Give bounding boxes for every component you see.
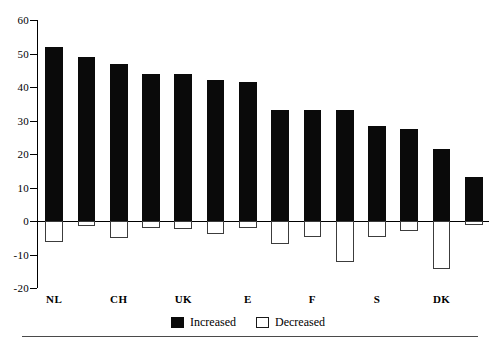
chart-figure: 6050403020100-10-20 NLCHUKEFSDK Increase… xyxy=(0,0,496,346)
bar-decreased[interactable] xyxy=(336,221,354,262)
bar-increased[interactable] xyxy=(239,82,257,221)
bar-slot[interactable] xyxy=(45,20,63,288)
x-axis-label-e: E xyxy=(232,292,264,306)
x-axis-label-uk: UK xyxy=(167,292,199,306)
bar-slot[interactable] xyxy=(207,20,225,288)
bar-slot[interactable] xyxy=(433,20,451,288)
legend-entry-decreased[interactable]: Decreased xyxy=(256,316,325,328)
bar-increased[interactable] xyxy=(336,110,354,221)
bar-decreased[interactable] xyxy=(304,221,322,237)
bar-increased[interactable] xyxy=(368,126,386,221)
bar-group xyxy=(38,20,489,288)
bar-slot[interactable] xyxy=(304,20,322,288)
y-tick-mark xyxy=(30,87,37,88)
bar-decreased[interactable] xyxy=(110,221,128,238)
bar-increased[interactable] xyxy=(174,74,192,221)
bar-slot[interactable] xyxy=(174,20,192,288)
bar-increased[interactable] xyxy=(304,110,322,221)
y-tick-label: 30 xyxy=(0,115,29,126)
x-axis-label-f: F xyxy=(296,292,328,306)
y-tick-mark xyxy=(30,188,37,189)
open-square-icon xyxy=(256,317,269,328)
y-tick-label: -20 xyxy=(0,283,29,294)
y-tick-mark xyxy=(30,121,37,122)
bar-slot[interactable] xyxy=(239,20,257,288)
bar-slot[interactable] xyxy=(110,20,128,288)
y-tick-mark xyxy=(30,20,37,21)
bar-slot[interactable] xyxy=(368,20,386,288)
bar-increased[interactable] xyxy=(110,64,128,221)
chart-legend: IncreasedDecreased xyxy=(0,313,496,331)
bar-increased[interactable] xyxy=(465,177,483,221)
y-tick-mark xyxy=(30,288,37,289)
y-tick-label: 10 xyxy=(0,182,29,193)
bar-slot[interactable] xyxy=(78,20,96,288)
bar-decreased[interactable] xyxy=(45,221,63,242)
bar-slot[interactable] xyxy=(465,20,483,288)
bar-increased[interactable] xyxy=(78,57,96,221)
y-tick-label: -10 xyxy=(0,249,29,260)
y-tick-label: 50 xyxy=(0,48,29,59)
x-axis-label-s: S xyxy=(361,292,393,306)
bar-increased[interactable] xyxy=(400,129,418,221)
y-tick-label: 0 xyxy=(0,216,29,227)
y-tick-mark xyxy=(30,255,37,256)
bar-decreased[interactable] xyxy=(433,221,451,269)
bar-decreased[interactable] xyxy=(78,221,96,226)
bar-increased[interactable] xyxy=(433,149,451,221)
bar-slot[interactable] xyxy=(271,20,289,288)
bar-slot[interactable] xyxy=(336,20,354,288)
bar-slot[interactable] xyxy=(400,20,418,288)
bar-decreased[interactable] xyxy=(271,221,289,244)
y-tick-mark xyxy=(30,221,37,222)
bar-decreased[interactable] xyxy=(465,221,483,225)
y-tick-mark xyxy=(30,154,37,155)
bar-decreased[interactable] xyxy=(400,221,418,231)
bar-decreased[interactable] xyxy=(142,221,160,228)
bar-increased[interactable] xyxy=(271,110,289,221)
legend-label: Increased xyxy=(190,316,236,328)
y-tick-mark xyxy=(30,54,37,55)
legend-label: Decreased xyxy=(275,316,325,328)
y-tick-label: 20 xyxy=(0,149,29,160)
bar-increased[interactable] xyxy=(207,80,225,221)
x-axis-label-dk: DK xyxy=(425,292,457,306)
footer-divider xyxy=(22,336,478,337)
bar-increased[interactable] xyxy=(142,74,160,221)
y-tick-label: 60 xyxy=(0,15,29,26)
x-axis-label-nl: NL xyxy=(38,292,70,306)
bar-increased[interactable] xyxy=(45,47,63,221)
bar-decreased[interactable] xyxy=(174,221,192,229)
bar-decreased[interactable] xyxy=(207,221,225,234)
bar-slot[interactable] xyxy=(142,20,160,288)
filled-square-icon xyxy=(171,317,184,328)
legend-entry-increased[interactable]: Increased xyxy=(171,316,236,328)
bar-decreased[interactable] xyxy=(239,221,257,228)
x-axis-labels: NLCHUKEFSDK xyxy=(38,292,489,308)
x-axis-label-ch: CH xyxy=(103,292,135,306)
y-tick-label: 40 xyxy=(0,82,29,93)
bar-decreased[interactable] xyxy=(368,221,386,237)
